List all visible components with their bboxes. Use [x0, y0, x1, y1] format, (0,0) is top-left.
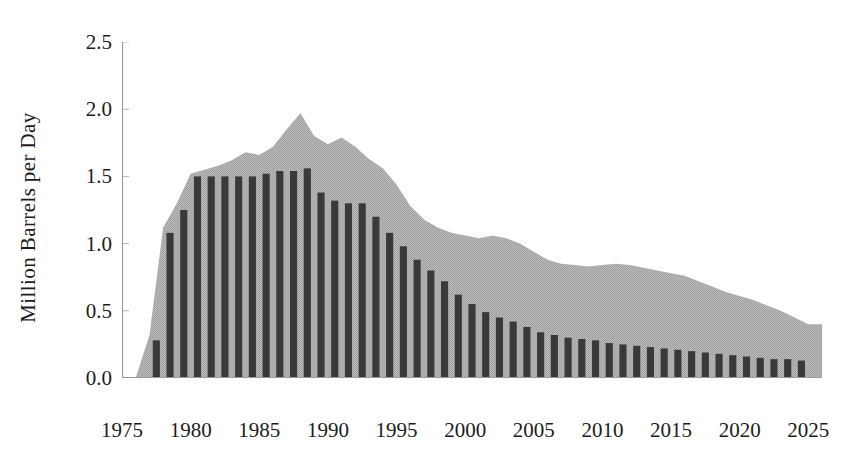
chart-canvas [122, 42, 822, 378]
x-tick-label: 1975 [101, 420, 143, 441]
bar [565, 338, 572, 378]
x-tick-label: 2020 [719, 420, 761, 441]
bar [359, 203, 366, 378]
x-tick-label: 2025 [787, 420, 829, 441]
chart-container: Million Barrels per Day 2.52.01.51.00.50… [0, 0, 854, 471]
bar [221, 176, 228, 378]
x-tick-label: 2005 [513, 420, 555, 441]
bar [290, 171, 297, 378]
bar [647, 347, 654, 378]
y-tick-label: 0.5 [56, 301, 112, 322]
bar [770, 359, 777, 378]
bar [263, 174, 270, 378]
plot-area [122, 42, 822, 378]
y-axis-title: Million Barrels per Day [16, 58, 41, 378]
bar [510, 322, 517, 378]
bar [455, 295, 462, 378]
y-tick-label: 0.0 [56, 368, 112, 389]
bar [729, 355, 736, 378]
bar [619, 344, 626, 378]
bar [331, 201, 338, 378]
bar [372, 217, 379, 378]
bar [249, 176, 256, 378]
x-tick-label: 1980 [170, 420, 212, 441]
x-tick-label: 1985 [238, 420, 280, 441]
x-tick-label: 1995 [376, 420, 418, 441]
y-tick-label: 2.5 [56, 32, 112, 53]
bar [606, 343, 613, 378]
bar [317, 193, 324, 378]
bar [688, 351, 695, 378]
bar [427, 270, 434, 378]
bar [715, 354, 722, 378]
bar [496, 318, 503, 378]
x-tick-label: 2015 [650, 420, 692, 441]
bar [194, 176, 201, 378]
bar [468, 304, 475, 378]
bar [414, 260, 421, 378]
bar [235, 176, 242, 378]
bar [578, 339, 585, 378]
x-axis-tick-labels: 1975198019851990199520002005201020152020… [0, 420, 854, 460]
bar [276, 171, 283, 378]
bar [551, 335, 558, 378]
bar [345, 203, 352, 378]
bar [386, 233, 393, 378]
x-tick-label: 1990 [307, 420, 349, 441]
y-tick-label: 2.0 [56, 99, 112, 120]
bar [798, 361, 805, 378]
x-tick-label: 2000 [444, 420, 486, 441]
bar [400, 246, 407, 378]
bar [592, 340, 599, 378]
x-tick-label: 2010 [581, 420, 623, 441]
y-tick-label: 1.5 [56, 166, 112, 187]
bar [208, 176, 215, 378]
bar [661, 348, 668, 378]
bar [757, 358, 764, 378]
bar [674, 350, 681, 378]
bar [166, 233, 173, 378]
bar [633, 346, 640, 378]
bar [304, 168, 311, 378]
bar [482, 312, 489, 378]
bar [441, 281, 448, 378]
y-axis-tick-labels: 2.52.01.51.00.50.0 [54, 0, 112, 471]
bar [702, 352, 709, 378]
bar [523, 327, 530, 378]
bar [537, 332, 544, 378]
bar [743, 357, 750, 379]
y-tick-label: 1.0 [56, 234, 112, 255]
bar [784, 359, 791, 378]
bar [153, 340, 160, 378]
bar [180, 210, 187, 378]
